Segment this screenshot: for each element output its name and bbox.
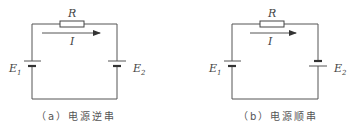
current-label: I bbox=[267, 35, 273, 48]
battery-e2 bbox=[309, 61, 327, 66]
resistor bbox=[260, 21, 284, 27]
e1-label: E1 bbox=[8, 62, 22, 77]
bottom-wire bbox=[32, 66, 117, 99]
e1-label: E1 bbox=[208, 62, 222, 77]
battery-e1 bbox=[224, 61, 241, 66]
e2-label: E2 bbox=[132, 62, 146, 77]
top-wire bbox=[32, 24, 117, 61]
current-label: I bbox=[69, 35, 75, 48]
battery-e1 bbox=[24, 61, 41, 66]
caption-b: （b）电源顺串 bbox=[238, 110, 318, 122]
bottom-wire bbox=[232, 66, 318, 99]
panel-b-circuit: R I E1 E2 （b）电源顺串 bbox=[208, 7, 347, 122]
resistor-label: R bbox=[67, 7, 76, 20]
caption-a: （a）电源逆串 bbox=[36, 110, 116, 122]
resistor-label: R bbox=[267, 7, 276, 20]
top-wire bbox=[232, 24, 318, 61]
battery-e2 bbox=[108, 61, 126, 66]
e2-label: E2 bbox=[333, 62, 347, 77]
resistor bbox=[60, 21, 84, 27]
panel-a-circuit: R I E1 E2 （a）电源逆串 bbox=[8, 7, 146, 122]
circuit-figure: R I E1 E2 （a）电源逆串 R I E1 bbox=[0, 0, 357, 131]
